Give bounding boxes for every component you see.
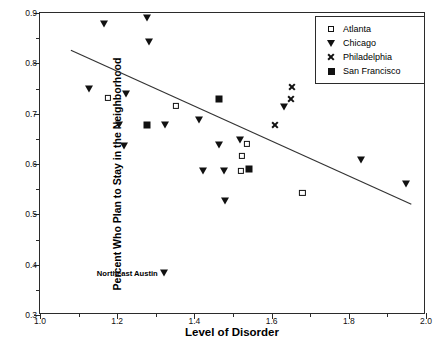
y-axis-minor-tick — [36, 240, 40, 241]
filled-square-marker — [246, 165, 253, 172]
y-axis-tick-label: 0.7 — [25, 109, 37, 119]
x-axis-minor-tick — [79, 313, 80, 317]
y-axis-minor-tick — [36, 189, 40, 190]
data-point — [220, 168, 228, 175]
x-axis-tick-label: 1.8 — [343, 316, 355, 326]
triangle-down-marker — [100, 21, 108, 28]
legend-item-san-francisco[interactable]: San Francisco — [323, 64, 418, 78]
legend-symbol — [323, 53, 339, 61]
data-point — [246, 165, 253, 172]
data-point — [287, 95, 295, 103]
scatter-plot-figure: Percent Who Plan to Stay in the Neighbor… — [0, 0, 443, 347]
data-point — [216, 95, 223, 102]
triangle-down-marker — [143, 15, 151, 22]
y-axis-tick-label: 0.5 — [25, 209, 37, 219]
data-point — [161, 122, 169, 129]
legend-symbol — [323, 40, 339, 47]
y-axis-tick-label: 0.6 — [25, 159, 37, 169]
x-marker — [287, 95, 295, 103]
triangle-down-marker — [357, 156, 365, 163]
data-point — [238, 168, 244, 174]
triangle-down-marker — [199, 168, 207, 175]
x-axis-tick-label: 2.0 — [420, 316, 432, 326]
x-axis-tick-label: 1.0 — [34, 316, 46, 326]
legend-label: Chicago — [343, 38, 376, 48]
data-point — [402, 180, 410, 187]
data-point — [357, 156, 365, 163]
data-point — [122, 91, 130, 98]
y-axis-minor-tick — [36, 139, 40, 140]
legend-item-atlanta[interactable]: Atlanta — [323, 22, 418, 36]
triangle-down-marker — [215, 142, 223, 149]
data-point — [199, 168, 207, 175]
data-point — [299, 190, 305, 196]
x-axis-minor-tick — [387, 313, 388, 317]
x-marker — [271, 121, 279, 129]
triangle-down-marker — [160, 270, 168, 277]
triangle-down-marker — [221, 198, 229, 205]
open-square-marker — [243, 141, 249, 147]
x-axis-title: Level of Disorder — [39, 326, 425, 338]
y-axis-minor-tick — [36, 89, 40, 90]
data-point — [288, 83, 296, 91]
triangle-down-marker — [402, 180, 410, 187]
data-point — [100, 21, 108, 28]
triangle-down-marker — [115, 122, 123, 129]
data-point — [280, 104, 288, 111]
x-axis-tick-label: 1.2 — [111, 316, 123, 326]
data-point — [215, 142, 223, 149]
triangle-down-marker — [280, 104, 288, 111]
filled-square-marker — [328, 68, 335, 75]
x-axis-tick-label: 1.6 — [266, 316, 278, 326]
data-point — [221, 198, 229, 205]
open-square-marker — [299, 190, 305, 196]
open-square-marker — [238, 168, 244, 174]
legend-symbol — [323, 68, 339, 75]
data-point — [271, 121, 279, 129]
y-axis-minor-tick — [36, 290, 40, 291]
open-square-marker — [239, 153, 245, 159]
data-point — [144, 122, 151, 129]
legend-item-philadelphia[interactable]: Philadelphia — [323, 50, 418, 64]
legend-symbol — [323, 26, 339, 32]
legend: AtlantaChicagoPhiladelphiaSan Francisco — [315, 16, 425, 84]
data-point — [120, 143, 128, 150]
triangle-down-marker — [122, 91, 130, 98]
data-point — [195, 116, 203, 123]
triangle-down-marker — [85, 85, 93, 92]
point-annotation: Northeast Austin — [97, 269, 158, 278]
legend-label: San Francisco — [343, 66, 401, 76]
data-point — [115, 122, 123, 129]
x-axis-tick-label: 1.4 — [188, 316, 200, 326]
data-point — [85, 85, 93, 92]
x-axis-minor-tick — [156, 313, 157, 317]
data-point — [145, 39, 153, 46]
filled-square-marker — [144, 122, 151, 129]
y-axis-tick-label: 0.8 — [25, 58, 37, 68]
triangle-down-marker — [161, 122, 169, 129]
data-point — [160, 270, 168, 277]
data-point — [243, 141, 249, 147]
x-marker — [327, 53, 335, 61]
x-marker — [288, 83, 296, 91]
legend-label: Philadelphia — [343, 52, 392, 62]
data-point — [143, 15, 151, 22]
triangle-down-marker — [236, 137, 244, 144]
x-axis-minor-tick — [310, 313, 311, 317]
data-point — [239, 153, 245, 159]
legend-item-chicago[interactable]: Chicago — [323, 36, 418, 50]
y-axis-minor-tick — [36, 38, 40, 39]
triangle-down-marker — [120, 143, 128, 150]
open-square-marker — [104, 95, 110, 101]
data-point — [173, 103, 179, 109]
x-axis-minor-tick — [233, 313, 234, 317]
triangle-down-marker — [145, 39, 153, 46]
data-point — [104, 95, 110, 101]
filled-square-marker — [216, 95, 223, 102]
data-point — [236, 137, 244, 144]
open-square-marker — [173, 103, 179, 109]
triangle-down-marker — [220, 168, 228, 175]
triangle-down-marker — [327, 40, 335, 47]
y-axis-tick-label: 0.4 — [25, 260, 37, 270]
open-square-marker — [328, 26, 334, 32]
